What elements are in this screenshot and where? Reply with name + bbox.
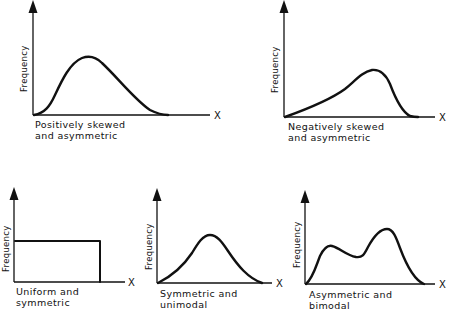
- caption-line-2: and asymmetric: [288, 132, 371, 143]
- distribution-curve: [285, 70, 418, 117]
- x-axis-label: X: [276, 278, 283, 289]
- y-axis-label: Frequency: [19, 45, 29, 92]
- distribution-curve: [158, 235, 262, 283]
- distribution-curve: [15, 241, 100, 282]
- y-axis-arrow-icon: [280, 0, 289, 13]
- panel-uniform-symmetric: X Frequency Uniform and symmetric: [1, 187, 135, 308]
- caption-line-2: symmetric: [16, 297, 70, 308]
- panel-asymmetric-bimodal: X Frequency Asymmetric and bimodal: [292, 190, 446, 311]
- caption-line-1: Symmetric and: [160, 288, 238, 299]
- panel-positively-skewed: X Frequency Positively skewed and asymme…: [19, 0, 221, 141]
- y-axis-arrow-icon: [301, 190, 310, 203]
- caption-line-1: Positively skewed: [35, 119, 125, 130]
- distribution-shapes-diagram: X Frequency Positively skewed and asymme…: [0, 0, 450, 315]
- panel-negatively-skewed: X Frequency Negatively skewed and asymme…: [270, 0, 446, 143]
- x-axis-label: X: [128, 277, 135, 288]
- y-axis-label: Frequency: [144, 223, 154, 270]
- panel-symmetric-unimodal: X Frequency Symmetric and unimodal: [144, 188, 283, 310]
- y-axis-label: Frequency: [270, 46, 280, 93]
- caption-line-1: Asymmetric and: [309, 289, 392, 300]
- caption-line-1: Uniform and: [16, 286, 79, 297]
- x-axis-label: X: [439, 279, 446, 290]
- y-axis-arrow-icon: [153, 188, 162, 201]
- caption-line-1: Negatively skewed: [288, 121, 384, 132]
- caption-line-2: unimodal: [160, 299, 207, 310]
- y-axis-label: Frequency: [1, 225, 11, 272]
- x-axis-label: X: [214, 110, 221, 121]
- y-axis-arrow-icon: [10, 187, 19, 200]
- distribution-curve: [34, 57, 168, 115]
- caption-line-2: bimodal: [309, 300, 350, 311]
- y-axis-arrow-icon: [29, 0, 38, 13]
- distribution-curve: [306, 229, 424, 284]
- caption-line-2: and asymmetric: [35, 130, 118, 141]
- y-axis-label: Frequency: [292, 221, 302, 268]
- x-axis-label: X: [439, 112, 446, 123]
